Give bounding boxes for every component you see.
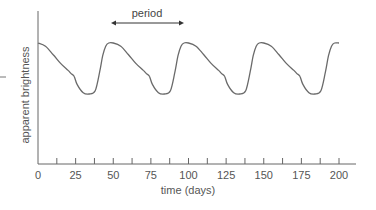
arrowhead-right-icon [179, 21, 184, 26]
x-ticks [57, 158, 339, 164]
arrowhead-left-icon [111, 21, 116, 26]
light-curve-chart: 0255075100125150175200 period time (days… [0, 0, 376, 210]
x-tick-label: 0 [35, 169, 41, 181]
period-label: period [132, 7, 163, 19]
x-tick-label: 175 [292, 169, 310, 181]
x-tick-label: 125 [217, 169, 235, 181]
x-tick-label: 25 [70, 169, 82, 181]
x-tick-label: 200 [330, 169, 348, 181]
x-axis-label: time (days) [161, 184, 215, 196]
x-tick-label: 75 [145, 169, 157, 181]
y-axis-label: apparent brightness [19, 46, 31, 144]
x-tick-labels: 0255075100125150175200 [35, 169, 348, 181]
x-tick-label: 50 [107, 169, 119, 181]
period-annotation: period [111, 7, 184, 26]
light-curve-line [38, 43, 339, 95]
x-tick-label: 100 [179, 169, 197, 181]
x-tick-label: 150 [255, 169, 273, 181]
